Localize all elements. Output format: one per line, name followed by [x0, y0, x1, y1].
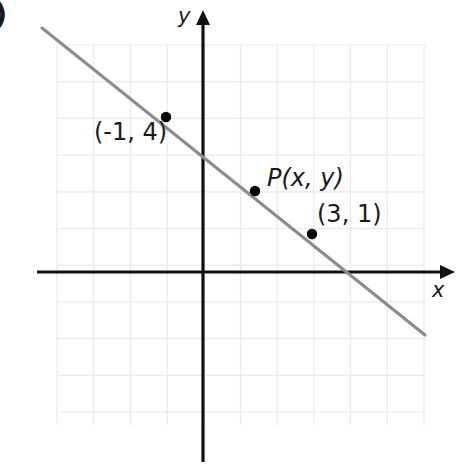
- x-axis-label: x: [432, 280, 444, 301]
- coordinate-plane-figure: ) y x (-1, 4) P(x, y) (3, 1): [0, 0, 467, 466]
- data-point-2: [307, 229, 317, 239]
- y-axis-label: y: [178, 6, 190, 27]
- plotted-line: [42, 28, 425, 335]
- linear-function-line: [42, 28, 425, 335]
- plot-canvas: [0, 0, 467, 466]
- data-point-1: [250, 186, 260, 196]
- x-axis-arrowhead: [440, 265, 455, 279]
- axes: [37, 10, 455, 462]
- point-label-minus1-4: (-1, 4): [94, 120, 167, 144]
- point-label-p-x-y: P(x, y): [267, 166, 344, 190]
- point-label-3-1: (3, 1): [317, 202, 382, 226]
- y-axis-arrowhead: [196, 10, 210, 25]
- grid-lines: [57, 45, 425, 425]
